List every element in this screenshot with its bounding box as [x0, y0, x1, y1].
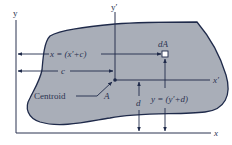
A-label: A [103, 91, 110, 101]
c-label: c [61, 66, 65, 76]
x-axis-label: x [213, 128, 218, 138]
x-equation-label: x = (x′+c) [49, 49, 87, 59]
dA-label: dA [158, 39, 169, 49]
centroid-point [113, 78, 117, 82]
y-prime-axis-label: y′ [111, 2, 118, 12]
centroid-label: Centroid [34, 91, 66, 101]
area-region [27, 22, 228, 125]
y-equation-label: y = (y′+d) [150, 94, 188, 104]
x-prime-axis-label: x′ [212, 75, 220, 85]
y-axis-label: y [13, 8, 18, 18]
dA-element [162, 51, 168, 57]
d-label: d [136, 98, 141, 108]
parallel-axis-diagram: y x y′ x′ x = (x′+c) c dA y = (y′+d) d C… [0, 0, 232, 145]
